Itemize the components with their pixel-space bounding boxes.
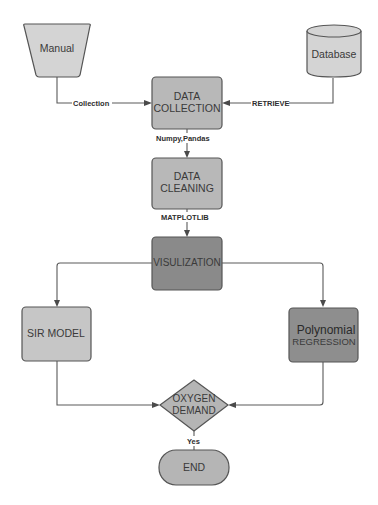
edge-polynomial-to-oxygen (232, 362, 323, 405)
arrow-head-icon (144, 100, 152, 106)
edge-visualization-to-polynomial (222, 263, 323, 303)
node-data-cleaning: DATA CLEANING (152, 158, 222, 209)
node-label: END (183, 461, 206, 473)
node-label-line2: COLLECTION (153, 102, 220, 114)
node-label: Database (312, 48, 357, 60)
edge-label-collection: Collection (73, 99, 110, 108)
node-manual: Manual (24, 24, 91, 77)
arrow-head-icon (184, 151, 190, 158)
node-label-line1: Polynomial (297, 323, 356, 337)
node-visualization: VISULIZATION (152, 237, 222, 290)
node-oxygen-demand: OXYGEN DEMAND (160, 380, 228, 431)
node-label-line1: DATA (174, 170, 200, 182)
node-label: VISULIZATION (153, 257, 221, 268)
arrow-head-icon (184, 230, 190, 237)
node-polynomial-regression: Polynomial REGRESSION (289, 308, 358, 362)
edge-label-matplotlib: MATPLOTLIB (161, 213, 209, 222)
edge-label-numpy-pandas: Numpy,Pandas (156, 134, 210, 143)
edge-label-retrieve: RETRIEVE (252, 99, 290, 108)
arrow-head-icon (228, 402, 236, 408)
arrow-head-icon (320, 300, 326, 307)
arrow-head-icon (54, 300, 60, 307)
node-label-line1: DATA (174, 90, 200, 102)
node-database: Database (307, 25, 361, 77)
edge-visualization-to-sir (57, 263, 152, 303)
node-data-collection: DATA COLLECTION (152, 77, 222, 129)
node-label: Manual (40, 42, 74, 54)
arrow-head-icon (222, 100, 230, 106)
node-label-line2: CLEANING (160, 182, 214, 194)
node-label-line2: REGRESSION (292, 336, 355, 347)
arrow-head-icon (152, 402, 160, 408)
edge-label-yes: Yes (187, 437, 200, 446)
node-label-line2: DEMAND (172, 405, 215, 416)
node-end: END (159, 450, 229, 485)
node-sir-model: SIR MODEL (22, 307, 91, 361)
edge-sir-to-oxygen (57, 361, 156, 405)
node-label-line1: OXYGEN (173, 393, 216, 404)
node-label: SIR MODEL (27, 327, 85, 339)
flowchart-canvas: Collection RETRIEVE Numpy,Pandas MATPLOT… (0, 0, 378, 505)
